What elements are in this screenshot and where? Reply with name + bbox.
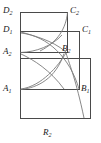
vertex-label-C1: C1	[82, 25, 91, 35]
vertex-label-C2: C2	[70, 6, 79, 16]
vertex-label-D2: D2	[3, 6, 13, 16]
vertex-label-A1: A1	[3, 84, 12, 94]
rectangle-upper	[21, 13, 68, 53]
geometry-figure: D2 C2 D1 C1 A2 B2 A1 B1 R2	[0, 0, 101, 143]
figure-caption: R2	[43, 128, 52, 140]
curve-d1-b1	[21, 33, 79, 89]
figure-canvas	[0, 0, 101, 143]
curve-a2-b1	[21, 54, 64, 89]
vertex-label-B1: B1	[81, 84, 90, 94]
vertex-label-A2: A2	[3, 47, 12, 57]
rectangle-middle	[21, 32, 80, 90]
vertex-label-B2: B2	[62, 44, 71, 54]
vertex-label-D1: D1	[3, 25, 13, 35]
